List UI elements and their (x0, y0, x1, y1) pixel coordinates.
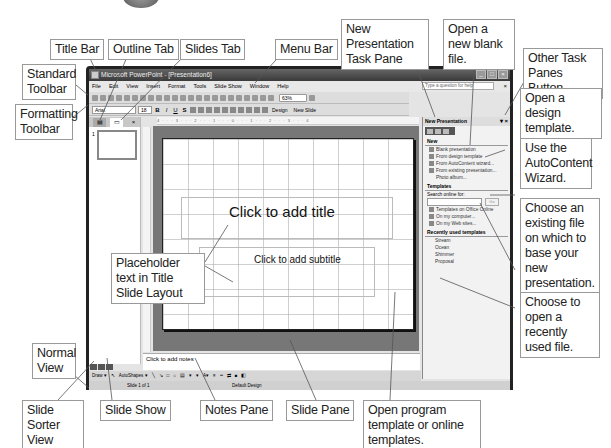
design-button[interactable]: Design (270, 107, 290, 113)
notes-pane[interactable]: Click to add notes (143, 353, 420, 370)
increase-font-icon[interactable] (230, 107, 236, 113)
color-grayscale-icon[interactable] (268, 95, 274, 101)
copy-icon[interactable] (172, 95, 178, 101)
select-objects-icon[interactable]: ↖ (111, 371, 115, 381)
menu-file[interactable]: File (92, 81, 101, 92)
recent-template-stream[interactable]: Stream (423, 237, 510, 244)
spelling-icon[interactable] (148, 95, 154, 101)
font-size-select[interactable]: 18 (138, 106, 152, 114)
forward-icon[interactable] (435, 129, 441, 134)
align-center-icon[interactable] (198, 107, 204, 113)
bullets-icon[interactable] (222, 107, 228, 113)
line-icon[interactable]: ╲ (152, 371, 155, 381)
menu-tools[interactable]: Tools (193, 81, 206, 92)
new-icon[interactable] (92, 95, 98, 101)
hyperlink-icon[interactable] (236, 95, 242, 101)
recent-template-ocean[interactable]: Ocean (423, 244, 510, 251)
recent-template-shimmer[interactable]: Shimmer (423, 251, 510, 258)
slides-tab[interactable]: ▭ (110, 118, 123, 127)
existing-presentation-link[interactable]: From existing presentation... (423, 167, 510, 174)
back-icon[interactable] (427, 129, 433, 134)
font-select[interactable]: Arial (92, 106, 136, 114)
office-online-templates-link[interactable]: Templates on Office Online (423, 206, 510, 213)
autocontent-wizard-link[interactable]: From AutoContent wizard... (423, 160, 510, 167)
design-template-link[interactable]: From design template (423, 153, 510, 160)
line-color-icon[interactable]: ▾ (196, 371, 199, 381)
slide-thumbnail[interactable] (97, 130, 137, 160)
font-color-icon[interactable] (262, 107, 268, 113)
title-placeholder-text[interactable]: Click to add title (229, 203, 335, 220)
on-my-web-sites-link[interactable]: On my Web sites... (423, 220, 510, 227)
paste-icon[interactable] (180, 95, 186, 101)
task-pane-close-icon[interactable]: × (504, 118, 508, 124)
slide-show-button[interactable] (106, 364, 113, 370)
help-icon[interactable] (309, 95, 315, 101)
permission-icon[interactable] (116, 95, 122, 101)
minimize-button[interactable]: _ (476, 70, 486, 79)
maximize-button[interactable]: □ (487, 70, 497, 79)
recent-template-proposal[interactable]: Proposal (423, 258, 510, 265)
3d-style-icon[interactable]: ◧ (241, 371, 246, 381)
show-formatting-icon[interactable] (252, 95, 258, 101)
photo-album-link[interactable]: Photo album... (423, 174, 510, 181)
menu-insert[interactable]: Insert (146, 81, 160, 92)
doc-close-icon[interactable]: × (503, 81, 507, 92)
align-right-icon[interactable] (206, 107, 212, 113)
print-preview-icon[interactable] (140, 95, 146, 101)
on-my-computer-link[interactable]: On my computer... (423, 213, 510, 220)
redo-icon[interactable] (204, 95, 210, 101)
shadow-style-icon[interactable]: ■ (235, 371, 238, 381)
decrease-indent-icon[interactable] (246, 107, 252, 113)
undo-icon[interactable] (196, 95, 202, 101)
line-style-icon[interactable]: ≡ (213, 371, 216, 381)
menu-help[interactable]: Help (277, 81, 288, 92)
arrow-icon[interactable]: ↘ (159, 371, 163, 381)
shadow-button[interactable]: S (181, 107, 188, 113)
table-icon[interactable] (220, 95, 226, 101)
menu-slide-show[interactable]: Slide Show (214, 81, 242, 92)
fill-color-icon[interactable]: ▾ (189, 371, 192, 381)
autoshapes-menu[interactable]: AutoShapes ▾ (119, 371, 148, 381)
menu-edit[interactable]: Edit (109, 81, 118, 92)
italic-button[interactable]: I (163, 107, 170, 113)
increase-indent-icon[interactable] (254, 107, 260, 113)
grid-icon[interactable] (260, 95, 266, 101)
print-icon[interactable] (132, 95, 138, 101)
underline-button[interactable]: U (172, 107, 179, 113)
arrow-style-icon[interactable]: ⇄ (227, 371, 231, 381)
new-slide-button[interactable]: New Slide (292, 107, 319, 113)
menu-window[interactable]: Window (250, 81, 270, 92)
email-icon[interactable] (124, 95, 130, 101)
bold-button[interactable]: B (154, 107, 161, 113)
draw-menu[interactable]: Draw ▾ (92, 371, 107, 381)
blank-presentation-link[interactable]: Blank presentation (423, 146, 510, 153)
oval-icon[interactable]: ○ (173, 371, 176, 381)
normal-view-button[interactable] (90, 364, 97, 370)
help-search-input[interactable]: Type a question for help (422, 82, 494, 90)
decrease-font-icon[interactable] (238, 107, 244, 113)
align-left-icon[interactable] (190, 107, 196, 113)
format-painter-icon[interactable] (188, 95, 194, 101)
menu-view[interactable]: View (126, 81, 138, 92)
outline-tab[interactable]: ▤ (93, 118, 106, 127)
zoom-select[interactable]: 63% (279, 94, 307, 102)
cut-icon[interactable] (164, 95, 170, 101)
open-icon[interactable] (100, 95, 106, 101)
other-task-panes-button[interactable]: ▾ (500, 118, 503, 124)
menu-format[interactable]: Format (168, 81, 185, 92)
numbering-icon[interactable] (214, 107, 220, 113)
dash-style-icon[interactable]: ┅ (220, 371, 223, 381)
subtitle-placeholder-text[interactable]: Click to add subtitle (254, 254, 341, 265)
textbox-icon[interactable]: ▤ (180, 371, 185, 381)
expand-all-icon[interactable] (244, 95, 250, 101)
slide-sorter-view-button[interactable] (98, 364, 105, 370)
tables-borders-icon[interactable] (228, 95, 234, 101)
rectangle-icon[interactable]: □ (167, 371, 170, 381)
home-icon[interactable] (443, 129, 449, 134)
template-search-input[interactable] (427, 198, 482, 206)
chart-icon[interactable] (212, 95, 218, 101)
close-button[interactable]: × (498, 70, 508, 79)
pane-close-icon[interactable]: × (127, 118, 140, 127)
go-button[interactable]: Go (485, 198, 499, 206)
font-color-draw-icon[interactable]: A▾ (203, 371, 209, 381)
